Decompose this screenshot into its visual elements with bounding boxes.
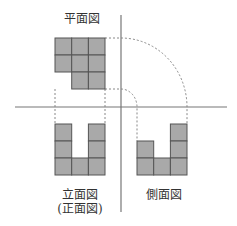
front-view bbox=[55, 124, 105, 175]
front-view-label: 立面図 bbox=[58, 188, 102, 202]
plan-view bbox=[55, 38, 105, 89]
front-view-label-alt: (正面図) bbox=[50, 202, 110, 216]
orthographic-projection-diagram bbox=[0, 0, 237, 226]
side-view bbox=[137, 124, 187, 175]
plan-view-label: 平面図 bbox=[62, 12, 102, 26]
side-view-label: 側面図 bbox=[142, 188, 186, 202]
